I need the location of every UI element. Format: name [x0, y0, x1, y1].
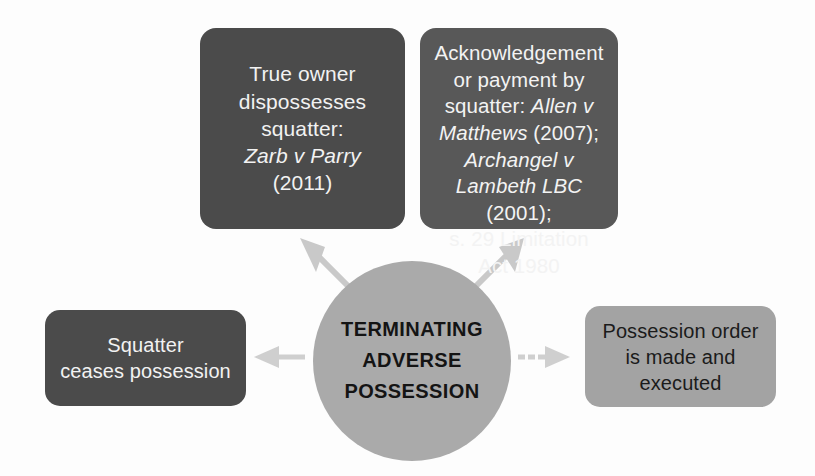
node-possession-order: Possession order is made and executed — [585, 306, 776, 407]
node-center-label: TERMINATING ADVERSE POSSESSION — [313, 314, 511, 409]
arrow-center-to-possession-order — [518, 346, 570, 368]
node-center-terminating-adverse-possession: TERMINATING ADVERSE POSSESSION — [313, 261, 511, 461]
node-acknowledgement-label: Acknowledgement or payment by squatter: … — [430, 40, 608, 280]
node-true-owner: True owner dispossesses squatter: Zarb v… — [200, 28, 405, 229]
arrow-center-to-squatter-ceases — [254, 346, 305, 368]
node-acknowledgement: Acknowledgement or payment by squatter: … — [420, 28, 618, 229]
diagram-canvas: True owner dispossesses squatter: Zarb v… — [0, 0, 815, 476]
node-true-owner-label: True owner dispossesses squatter: Zarb v… — [210, 60, 395, 196]
node-squatter-ceases: Squatter ceases possession — [45, 310, 246, 406]
arrow-center-to-true-owner — [300, 238, 352, 290]
node-squatter-ceases-label: Squatter ceases possession — [55, 332, 236, 384]
node-possession-order-label: Possession order is made and executed — [595, 318, 766, 396]
